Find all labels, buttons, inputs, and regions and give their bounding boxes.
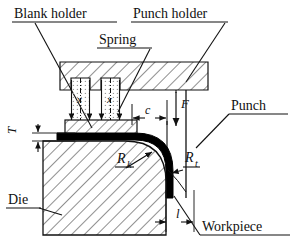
workpiece-text: Workpiece [202,219,262,234]
draw-depth-label: l [176,206,180,221]
clearance-label: c [145,103,151,117]
punch-radius-leader [172,170,183,173]
spring-travel-1-text: x [76,93,82,105]
spring-text: Spring [99,32,136,47]
label-workpiece: Workpiece [174,196,290,235]
deep-drawing-die-diagram: Blank holder Punch holder Spring x [0,0,291,252]
force-arrow-group: F [176,90,190,126]
die-radius-symbol: R [116,151,126,166]
spring-assembly-left: x [71,78,90,120]
die-text: Die [8,192,28,207]
thickness-label: T [4,126,19,134]
punch-radius-symbol: R [184,150,194,165]
punch-text: Punch [231,98,266,113]
spring-travel-2-text: x [106,93,112,105]
diagram-canvas: Blank holder Punch holder Spring x [0,0,291,252]
spring-assembly-right: x [101,78,120,120]
label-punch: Punch [196,98,288,148]
force-label: F [180,96,190,111]
blank-holder-text: Blank holder [14,6,87,21]
punch-leader [196,114,229,148]
punch-holder-text: Punch holder [133,6,208,21]
